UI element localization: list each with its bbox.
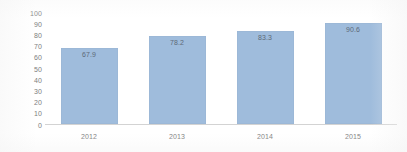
y-axis-tick-label: 50	[16, 66, 42, 73]
y-axis-tick-label: 90	[16, 21, 42, 28]
bar: 90.6	[325, 23, 382, 124]
bar-value-label: 78.2	[149, 39, 206, 47]
y-axis-tick-label: 20	[16, 99, 42, 106]
y-axis-tick-label: 60	[16, 54, 42, 61]
y-axis: 1009080706050403020100	[16, 13, 42, 125]
y-axis-tick-label: 100	[16, 10, 42, 17]
y-axis-tick-label: 10	[16, 110, 42, 117]
x-axis-tick-label: 2013	[133, 132, 221, 141]
bar-value-label: 83.3	[237, 34, 294, 42]
y-axis-tick-label: 80	[16, 32, 42, 39]
bar: 78.2	[149, 36, 206, 124]
x-axis-tick-label: 2015	[309, 132, 397, 141]
bar-value-label: 67.9	[61, 51, 118, 59]
y-axis-tick-label: 70	[16, 43, 42, 50]
bar: 67.9	[61, 48, 118, 124]
y-axis-tick-label: 0	[16, 122, 42, 129]
x-axis-tick-label: 2012	[45, 132, 133, 141]
axis-baseline	[45, 124, 397, 125]
x-axis-tick-label: 2014	[221, 132, 309, 141]
y-axis-tick-label: 40	[16, 77, 42, 84]
x-axis: 2012201320142015	[45, 132, 397, 146]
plot-area: 67.978.283.390.6	[45, 13, 397, 125]
bar-value-label: 90.6	[325, 26, 382, 34]
bar: 83.3	[237, 31, 294, 124]
bar-chart: 1009080706050403020100 67.978.283.390.6 …	[0, 0, 407, 152]
y-axis-tick-label: 30	[16, 88, 42, 95]
